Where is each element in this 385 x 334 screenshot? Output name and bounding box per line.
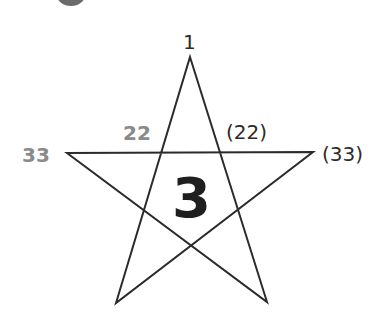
left-vertex-label: 33 <box>22 145 50 165</box>
right-intersection-label: (22) <box>226 122 267 142</box>
right-vertex-label: (33) <box>322 144 363 164</box>
left-intersection-label: 22 <box>123 123 151 143</box>
center-label: 3 <box>172 170 211 226</box>
pentagram-diagram: · · · · · · · 1 33 22 (22) (33) 3 <box>0 0 385 334</box>
top-vertex-label: 1 <box>183 32 196 52</box>
